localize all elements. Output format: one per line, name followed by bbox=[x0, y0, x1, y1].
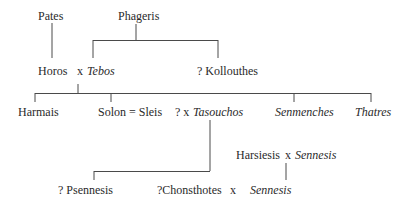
person-harsiesis: Harsiesis bbox=[236, 148, 280, 162]
person-tasouchos: Tasouchos bbox=[193, 105, 243, 119]
person-sennesis-wife: Sennesis bbox=[295, 148, 336, 162]
person-senmenches: Senmenches bbox=[275, 105, 334, 119]
marriage-symbol-3: x bbox=[230, 183, 236, 197]
person-harmais: Harmais bbox=[18, 105, 59, 119]
person-tebos: Tebos bbox=[87, 64, 115, 78]
person-sennesis: Sennesis bbox=[250, 183, 291, 197]
person-horos: Horos bbox=[38, 64, 67, 78]
uncertain-marriage-symbol: ? x bbox=[175, 105, 189, 119]
tree-connector-lines bbox=[0, 0, 413, 202]
person-thatres: Thatres bbox=[355, 105, 391, 119]
person-chonsthotes: ?Chonsthotes bbox=[157, 183, 222, 197]
person-phageris: Phageris bbox=[118, 9, 159, 23]
person-solon-sleis: Solon = Sleis bbox=[98, 105, 162, 119]
marriage-symbol: x bbox=[77, 64, 83, 78]
person-psennesis: ? Psennesis bbox=[58, 183, 113, 197]
marriage-symbol-2: x bbox=[285, 148, 291, 162]
person-kollouthes: ? Kollouthes bbox=[197, 64, 258, 78]
person-pates: Pates bbox=[38, 9, 63, 23]
